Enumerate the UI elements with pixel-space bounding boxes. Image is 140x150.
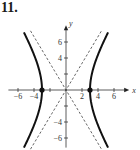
x-axis-label: x — [131, 86, 136, 95]
y-tick-label: −6 — [53, 134, 62, 143]
y-tick-label: 4 — [58, 54, 62, 63]
x-tick-label: 2 — [80, 92, 84, 101]
x-tick-label: 4 — [96, 92, 100, 101]
y-tick-label: 6 — [58, 38, 62, 47]
x-tick-label: −6 — [14, 92, 23, 101]
y-axis-arrow-icon — [64, 25, 68, 30]
y-axis-label: y — [68, 19, 73, 28]
x-tick-label: 6 — [112, 92, 116, 101]
vertex-point — [39, 87, 44, 92]
x-axis-arrow-icon — [124, 88, 129, 92]
hyperbola-graph: xy −6−424664−4−6 — [0, 0, 140, 150]
x-tick-label: −4 — [30, 92, 39, 101]
y-tick-label: −4 — [53, 118, 62, 127]
vertex-point — [87, 87, 92, 92]
